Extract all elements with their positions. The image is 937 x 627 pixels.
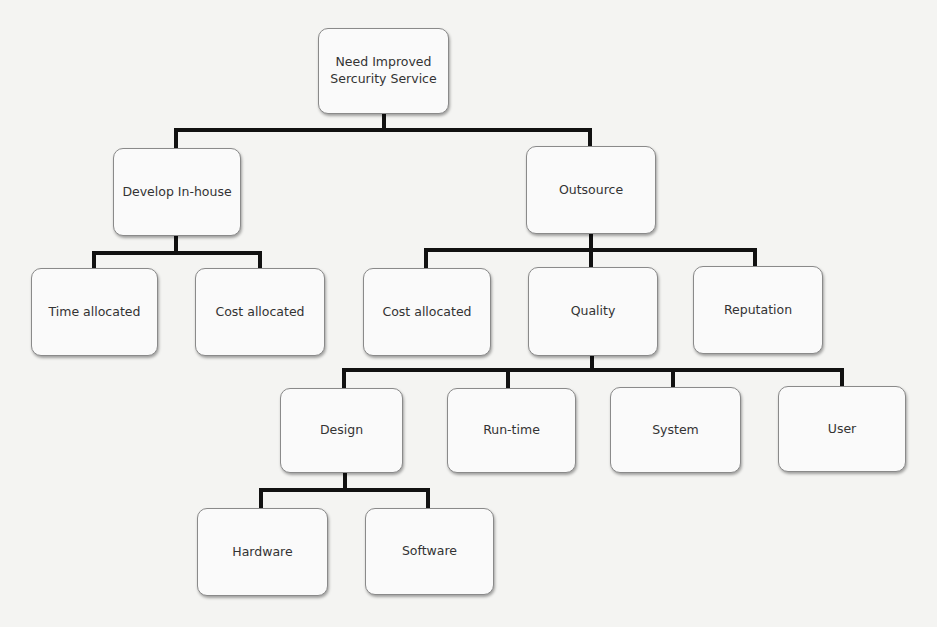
connector — [259, 488, 430, 492]
connector — [424, 248, 757, 252]
node-time-allocated: Time allocated — [31, 268, 158, 356]
hierarchy-diagram: Need Improved Sercurity Service Develop … — [0, 0, 937, 627]
connector — [342, 368, 346, 389]
node-system: System — [610, 387, 741, 473]
node-hardware: Hardware — [197, 508, 328, 596]
node-label: Develop In-house — [122, 184, 231, 201]
node-label: User — [828, 421, 857, 438]
connector — [342, 368, 844, 372]
node-label: Software — [402, 543, 457, 560]
node-outsource: Outsource — [526, 146, 656, 234]
node-label: Hardware — [232, 544, 292, 561]
connector — [588, 128, 592, 147]
node-label: Time allocated — [49, 304, 141, 321]
connector — [671, 368, 675, 389]
node-reputation: Reputation — [693, 266, 823, 354]
node-label: Reputation — [724, 302, 792, 319]
node-software: Software — [365, 508, 494, 595]
connector — [426, 488, 430, 509]
connector — [506, 368, 510, 389]
connector — [258, 251, 262, 269]
node-cost-allocated-inhouse: Cost allocated — [195, 268, 325, 356]
node-user: User — [778, 386, 906, 472]
node-label: Quality — [571, 303, 616, 320]
node-label: Sercurity Service — [330, 71, 436, 88]
connector — [92, 251, 262, 255]
node-label: System — [652, 422, 699, 439]
node-design: Design — [280, 388, 403, 473]
node-run-time: Run-time — [447, 388, 576, 473]
node-label: Outsource — [559, 182, 623, 199]
connector — [174, 128, 178, 149]
node-label: Need Improved — [336, 54, 432, 71]
connector — [424, 248, 428, 269]
node-label: Cost allocated — [215, 304, 304, 321]
connector — [174, 128, 592, 132]
connector — [259, 488, 263, 509]
node-quality: Quality — [528, 267, 658, 356]
node-label: Design — [320, 422, 363, 439]
node-label: Cost allocated — [382, 304, 471, 321]
node-label: Run-time — [483, 422, 540, 439]
connector — [753, 248, 757, 267]
node-develop-inhouse: Develop In-house — [113, 148, 241, 236]
node-root: Need Improved Sercurity Service — [318, 28, 449, 114]
node-cost-allocated-outsource: Cost allocated — [363, 268, 491, 356]
connector — [92, 251, 96, 269]
